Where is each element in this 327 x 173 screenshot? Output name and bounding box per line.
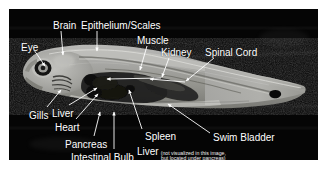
photo-frame: Eye Brain Epithelium/Scales Muscle Kidne… bbox=[9, 9, 318, 160]
zebrafish-specimen bbox=[9, 9, 318, 160]
liver-structure bbox=[92, 76, 118, 90]
caudal-dark-spot bbox=[269, 90, 281, 98]
spleen-structure bbox=[125, 85, 135, 93]
figure-root: Eye Brain Epithelium/Scales Muscle Kidne… bbox=[0, 0, 327, 173]
brain-structure bbox=[53, 54, 75, 68]
